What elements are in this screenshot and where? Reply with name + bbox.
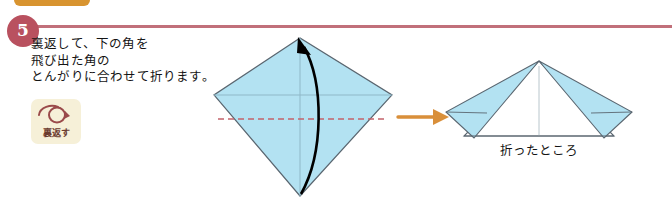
turn-over-icon-badge: 裏返す: [31, 99, 81, 144]
paper-body: [214, 38, 392, 196]
section-tab: 折り方: [14, 0, 90, 6]
instruction-line-2: 飛び出た角の: [31, 53, 236, 70]
kite-diamond-before-diagram: [212, 33, 412, 201]
turn-over-icon-label: 裏返す: [31, 127, 81, 139]
folded-result-diagram: [444, 56, 634, 146]
result-caption: 折ったところ: [444, 143, 634, 159]
instruction-line-3: とんがりに合わせて折ります。: [31, 69, 236, 86]
instruction-text: 裏返して、下の角を 飛び出た角の とんがりに合わせて折ります。: [31, 36, 236, 86]
turn-over-icon: [31, 101, 81, 127]
step-divider-rule: [34, 25, 672, 28]
instruction-line-1: 裏返して、下の角を: [31, 36, 236, 53]
step-number-label: 5: [17, 22, 29, 40]
